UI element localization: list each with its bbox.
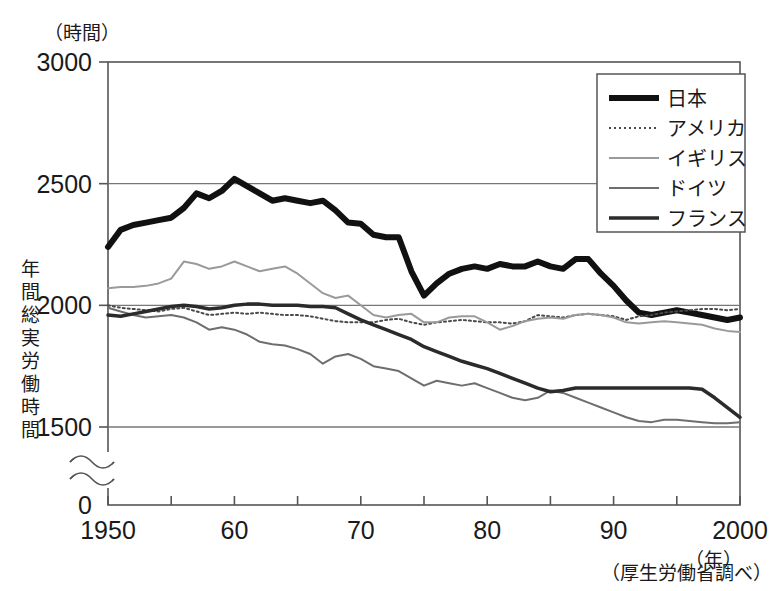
labor-hours-line-chart: 30002500200015000（時間）1950607080902000（年）… <box>0 0 781 591</box>
y-axis-title-char-5: 働 <box>21 374 40 395</box>
legend-label-germany: ドイツ <box>667 178 727 200</box>
x-tick-label-1970: 70 <box>347 516 375 544</box>
y-axis-title-char-3: 実 <box>21 328 40 349</box>
y-tick-label-3000: 3000 <box>36 48 92 76</box>
y-tick-label-2000: 2000 <box>36 291 92 319</box>
x-tick-label-1980: 80 <box>473 516 501 544</box>
y-axis-title-char-6: 時 <box>21 397 40 418</box>
source-note: （厚生労働省調べ） <box>601 563 772 584</box>
legend-label-usa: アメリカ <box>667 118 746 140</box>
x-tick-label-1960: 60 <box>220 516 248 544</box>
y-axis-title-char-2: 総 <box>21 305 40 326</box>
x-tick-label-1990: 90 <box>600 516 628 544</box>
y-tick-label-0: 0 <box>78 491 92 519</box>
y-axis-title-char-1: 間 <box>21 282 40 303</box>
x-tick-label-1950: 1950 <box>80 516 136 544</box>
legend-label-japan: 日本 <box>667 88 707 110</box>
y-axis-title-char-7: 間 <box>21 420 40 441</box>
x-tick-label-2000: 2000 <box>712 516 768 544</box>
y-tick-label-1500: 1500 <box>36 413 92 441</box>
series-line-france <box>108 304 740 417</box>
legend-label-uk: イギリス <box>667 148 747 170</box>
y-axis-title-char-4: 労 <box>21 351 40 372</box>
y-tick-label-2500: 2500 <box>36 170 92 198</box>
y-axis-break-mask <box>74 452 112 488</box>
y-axis-title-char-0: 年 <box>21 259 40 280</box>
y-unit-label: （時間） <box>44 23 120 44</box>
legend-label-france: フランス <box>667 208 747 230</box>
